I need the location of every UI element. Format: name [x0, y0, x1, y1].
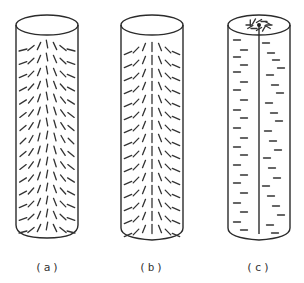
fiber-dash: [37, 42, 40, 49]
fiber-dash: [143, 160, 146, 167]
fiber-dash: [53, 211, 56, 218]
fiber-dash: [143, 212, 146, 219]
fiber-dash: [37, 224, 40, 231]
fiber-dash: [53, 42, 56, 49]
fiber-dash: [143, 199, 146, 206]
fiber-dash: [46, 40, 47, 48]
fiber-dash: [28, 227, 34, 232]
fiber-dash: [38, 146, 40, 154]
fiber-dash: [28, 71, 34, 77]
fiber-dash: [54, 172, 57, 180]
fiber-dash: [46, 105, 47, 113]
fiber-dash: [46, 183, 47, 191]
fiber-dash: [20, 113, 26, 118]
fiber-dash: [133, 190, 139, 196]
fiber-dash: [263, 26, 266, 31]
fiber-dash: [143, 56, 146, 63]
cylinder-c: [228, 15, 290, 240]
fiber-dash: [143, 82, 146, 89]
fiber-dash: [46, 53, 47, 61]
fiber-dash: [29, 136, 33, 143]
fiber-dash: [159, 95, 162, 102]
fiber-dash: [38, 107, 40, 115]
fiber-dash: [124, 207, 131, 210]
fiber-dash: [68, 113, 74, 118]
fiber-dash: [20, 165, 26, 170]
fiber-dash: [37, 55, 40, 62]
fiber-dash: [60, 201, 66, 207]
fiber-dash: [61, 175, 66, 181]
fiber-dash: [67, 62, 75, 65]
fiber-dash: [28, 58, 34, 63]
fiber-dash: [124, 155, 131, 158]
fiber-dash: [37, 211, 40, 218]
fiber-dash: [133, 138, 139, 144]
fiber-dash: [60, 84, 65, 90]
fiber-dash: [67, 218, 75, 221]
fiber-dash: [165, 125, 171, 131]
fiber-dash: [28, 201, 34, 207]
fiber-dash: [60, 45, 66, 50]
fiber-dash: [172, 194, 179, 197]
fiber-dash: [54, 107, 56, 115]
fiber-dash: [143, 134, 146, 141]
fiber-dash: [46, 222, 47, 230]
fiber-dash: [133, 151, 139, 157]
fiber-dash: [159, 82, 162, 89]
fiber-dash: [143, 69, 146, 76]
fiber-dash: [54, 185, 57, 192]
fiber-dash: [124, 168, 131, 171]
fiber-dash: [143, 121, 146, 128]
fiber-dash: [143, 95, 146, 102]
fiber-dash: [46, 79, 47, 87]
fiber-dash: [133, 125, 139, 131]
fiber-dash: [46, 196, 47, 204]
fiber-dash: [68, 178, 75, 182]
fiber-dash: [133, 216, 139, 222]
fiber-dash: [165, 177, 171, 183]
fiber-dash: [133, 99, 139, 105]
fiber-dash: [20, 151, 26, 156]
fiber-dash: [19, 74, 26, 77]
fiber-dash: [143, 225, 146, 232]
fiber-dash: [159, 173, 162, 180]
fiber-dash: [61, 110, 66, 116]
fiber-dash: [20, 178, 27, 182]
fiber-dash: [172, 77, 179, 80]
fiber-dash: [124, 142, 131, 145]
fiber-dash: [28, 188, 33, 194]
fiber-dash: [46, 144, 47, 152]
fiber-dash: [61, 97, 66, 103]
fiber-dash: [159, 108, 162, 115]
fiber-dash: [54, 159, 56, 167]
fiber-dash: [159, 134, 162, 141]
fiber-dash: [38, 159, 40, 167]
fiber-dash: [143, 108, 146, 115]
fiber-dash: [253, 19, 256, 24]
cylinder-b: [121, 15, 183, 240]
fiber-dash: [20, 87, 27, 91]
fiber-dash: [172, 116, 179, 119]
fiber-dash: [159, 56, 162, 63]
fiber-dash: [20, 125, 26, 130]
fiber-dash: [28, 214, 34, 219]
fiber-dash: [172, 51, 179, 54]
fiber-dash: [20, 138, 26, 144]
fiber-dash: [159, 225, 162, 232]
fiber-dash: [165, 47, 171, 53]
fiber-dash: [54, 94, 57, 102]
axis-point-icon: [257, 23, 261, 27]
fiber-dash: [20, 100, 27, 104]
fiber-dash: [60, 71, 66, 77]
fiber-dash: [46, 170, 47, 178]
fiber-dash: [172, 90, 179, 93]
fiber-dash: [29, 175, 34, 181]
fiber-dash: [133, 112, 139, 118]
fiber-dash: [38, 120, 40, 128]
panel-label-c: (c): [239, 261, 279, 274]
fiber-dash: [165, 112, 171, 118]
fiber-dash: [133, 60, 139, 66]
fiber-dash: [38, 198, 41, 205]
fiber-dash: [159, 160, 162, 167]
fiber-dash: [61, 149, 65, 156]
